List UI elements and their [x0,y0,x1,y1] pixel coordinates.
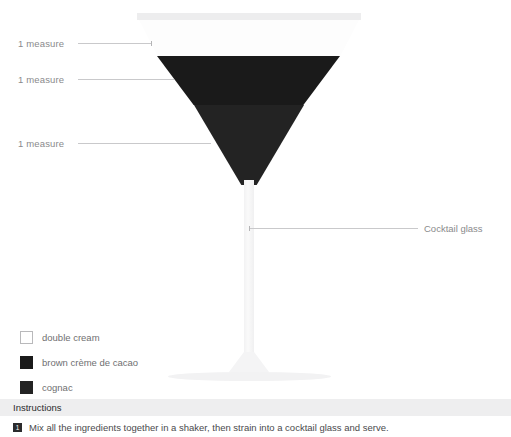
step-number-marker: 1 [13,423,22,432]
layer-brown-creme-de-cacao [157,56,340,105]
step-text: Mix all the ingredients together in a sh… [29,422,389,433]
glass-stem [244,180,254,365]
legend: double cream brown crème de cacao cognac [20,328,220,403]
leader-tick-double-cream [151,41,152,46]
legend-swatch-cognac [20,381,33,394]
leader-line-double-cream [78,43,152,44]
legend-label-creme-de-cacao: brown crème de cacao [42,357,138,368]
legend-item-creme-de-cacao: brown crème de cacao [20,353,220,372]
legend-label-cognac: cognac [42,382,73,393]
glass-rim [137,13,361,20]
legend-swatch-creme-de-cacao [20,356,33,369]
layer-double-cream [139,20,359,56]
legend-swatch-double-cream [20,331,33,344]
legend-item-cognac: cognac [20,378,220,397]
instructions-title: Instructions [13,402,62,413]
measure-label-double-cream: 1 measure [18,38,64,49]
legend-item-double-cream: double cream [20,328,220,347]
label-cocktail-glass: Cocktail glass [424,223,483,234]
leader-line-cocktail-glass [250,228,418,229]
leader-line-creme-de-cacao [78,79,174,80]
leader-line-cognac [78,143,211,144]
measure-label-creme-de-cacao: 1 measure [18,74,64,85]
cocktail-recipe-diagram: 1 measure 1 measure 1 measure Cocktail g… [0,0,511,437]
layer-cognac [194,105,304,185]
legend-label-double-cream: double cream [42,332,100,343]
instructions-step-1: 1 Mix all the ingredients together in a … [13,422,389,433]
instructions-header-bar [0,399,511,416]
measure-label-cognac: 1 measure [18,138,64,149]
